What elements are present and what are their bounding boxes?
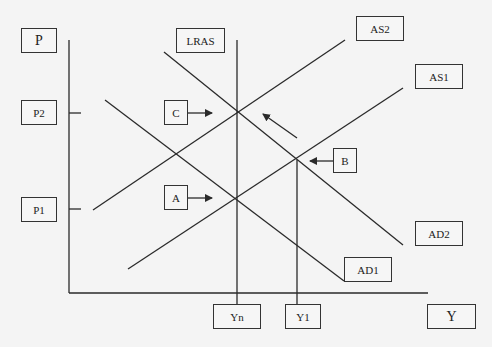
y1-label: Y1: [285, 304, 321, 329]
point-a-label: A: [164, 185, 188, 210]
ad1-curve: [105, 100, 344, 281]
as2-curve: [93, 40, 345, 210]
ad-as-diagram: [0, 0, 492, 347]
yn-label: Yn: [213, 304, 261, 329]
p1-label: P1: [21, 197, 57, 222]
lras-label: LRAS: [176, 28, 225, 53]
as2-label: AS2: [356, 16, 404, 41]
y-axis-label: P: [21, 28, 57, 53]
point-c-label: C: [164, 100, 188, 125]
shift-arrow-icon: [263, 114, 297, 138]
as1-label: AS1: [415, 64, 463, 89]
ad1-label: AD1: [344, 257, 392, 282]
p2-label: P2: [21, 100, 57, 125]
point-b-label: B: [333, 148, 357, 173]
x-axis-label: Y: [427, 304, 476, 329]
ad2-label: AD2: [415, 221, 463, 246]
